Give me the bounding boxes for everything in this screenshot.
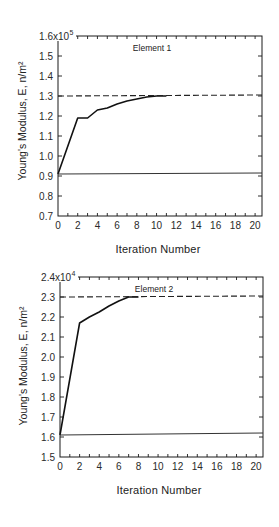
y-axis-label: Young's Modulus, E, n/m² bbox=[17, 306, 29, 425]
y-tick-label: 1.1 bbox=[39, 131, 53, 142]
x-tick-label: 0 bbox=[55, 220, 61, 231]
x-tick-label: 20 bbox=[251, 461, 263, 472]
solid-reference-line bbox=[60, 433, 263, 435]
data-curve bbox=[58, 96, 166, 174]
x-tick-label: 14 bbox=[190, 220, 202, 231]
y-multiplier-label: x10 bbox=[55, 272, 72, 283]
x-tick-label: 20 bbox=[250, 220, 262, 231]
y-multiplier-exponent: 5 bbox=[70, 29, 74, 36]
figure: 024681012141618200.70.80.91.01.11.21.31.… bbox=[0, 0, 279, 527]
y-tick-label: 1.6 bbox=[39, 31, 53, 42]
plot-area: 024681012141618201.51.61.71.81.92.02.12.… bbox=[41, 270, 263, 473]
y-tick-label: 2.1 bbox=[41, 332, 55, 343]
x-tick-label: 10 bbox=[151, 220, 163, 231]
x-axis-label: Iteration Number bbox=[115, 243, 200, 255]
x-tick-label: 2 bbox=[77, 461, 83, 472]
x-tick-label: 18 bbox=[231, 461, 243, 472]
y-multiplier-label: x10 bbox=[53, 31, 70, 42]
x-tick-label: 12 bbox=[171, 220, 183, 231]
y-tick-label: 1.6 bbox=[41, 432, 55, 443]
y-tick-label: 1.2 bbox=[39, 111, 53, 122]
y-tick-label: 0.9 bbox=[39, 171, 53, 182]
y-tick-label: 1.3 bbox=[39, 91, 53, 102]
y-tick-label: 1.0 bbox=[39, 151, 53, 162]
y-tick-label: 1.5 bbox=[41, 452, 55, 463]
x-tick-label: 8 bbox=[136, 461, 142, 472]
y-tick-label: 1.9 bbox=[41, 372, 55, 383]
plot-frame bbox=[58, 36, 262, 216]
x-tick-label: 0 bbox=[57, 461, 63, 472]
y-tick-label: 0.7 bbox=[39, 211, 53, 222]
y-tick-label: 2.2 bbox=[41, 312, 55, 323]
dashed-reference-line bbox=[58, 95, 262, 96]
solid-reference-line bbox=[58, 173, 262, 174]
x-tick-label: 4 bbox=[96, 461, 102, 472]
x-axis-label: Iteration Number bbox=[116, 484, 201, 496]
y-tick-label: 2.3 bbox=[41, 292, 55, 303]
y-tick-label: 2.4 bbox=[41, 272, 55, 283]
panel-title: Element 1 bbox=[133, 43, 172, 53]
plot-area: 024681012141618200.70.80.91.01.11.21.31.… bbox=[39, 29, 262, 232]
y-axis-label: Young's Modulus, E, n/m² bbox=[16, 61, 28, 180]
plot-frame bbox=[60, 277, 263, 457]
data-curve bbox=[60, 297, 139, 435]
y-tick-label: 1.4 bbox=[39, 71, 53, 82]
chart-element-1: 024681012141618200.70.80.91.01.11.21.31.… bbox=[16, 29, 262, 256]
x-tick-label: 8 bbox=[134, 220, 140, 231]
x-tick-label: 16 bbox=[210, 220, 222, 231]
chart-element-2: 024681012141618201.51.61.71.81.92.02.12.… bbox=[17, 270, 263, 497]
dashed-reference-line bbox=[60, 296, 263, 297]
y-multiplier-exponent: 4 bbox=[72, 270, 76, 277]
panel-title: Element 2 bbox=[135, 284, 174, 294]
x-tick-label: 6 bbox=[114, 220, 120, 231]
x-tick-label: 4 bbox=[95, 220, 101, 231]
x-tick-label: 14 bbox=[192, 461, 204, 472]
x-tick-label: 18 bbox=[230, 220, 242, 231]
x-tick-label: 10 bbox=[153, 461, 165, 472]
y-tick-label: 1.5 bbox=[39, 51, 53, 62]
x-tick-label: 2 bbox=[75, 220, 81, 231]
y-tick-label: 1.8 bbox=[41, 392, 55, 403]
x-tick-label: 12 bbox=[172, 461, 184, 472]
y-tick-label: 1.7 bbox=[41, 412, 55, 423]
y-tick-label: 2.0 bbox=[41, 352, 55, 363]
x-tick-label: 6 bbox=[116, 461, 122, 472]
x-tick-label: 16 bbox=[211, 461, 223, 472]
y-tick-label: 0.8 bbox=[39, 191, 53, 202]
